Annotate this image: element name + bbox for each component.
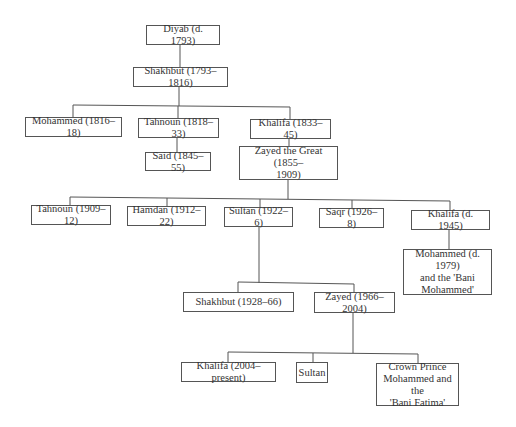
- node-diyab: Diyab (d. 1793): [146, 25, 220, 45]
- node-tahnoun-1909: Tahnoun (1909–12): [31, 205, 111, 225]
- node-shakhbut-1793: Shakhbut (1793–1816): [133, 67, 228, 87]
- node-saqr-1926: Saqr (1926–8): [319, 208, 384, 228]
- node-mohammed-1979: Mohammed (d. 1979) and the 'Bani Mohamme…: [403, 249, 492, 295]
- node-khalifa-2004: Khalifa (2004–present): [181, 362, 276, 382]
- node-mohammed-1816: Mohammed (1816–18): [25, 117, 122, 137]
- node-zayed-1966: Zayed (1966–2004): [314, 292, 395, 313]
- node-sultan-1922: Sultan (1922–6): [224, 207, 293, 227]
- node-sultan: Sultan: [296, 362, 328, 383]
- node-crown-prince-mohammed: Crown Prince Mohammed and the 'Bani Fati…: [376, 363, 459, 406]
- node-khalifa-1945: Khalifa (d. 1945): [411, 210, 490, 230]
- node-shakhbut-1928: Shakhbut (1928–66): [183, 292, 294, 312]
- node-hamdan-1912: Hamdan (1912–22): [127, 206, 206, 226]
- node-zayed-the-great: Zayed the Great (1855– 1909): [239, 146, 338, 180]
- family-tree-diagram: Diyab (d. 1793) Shakhbut (1793–1816) Moh…: [0, 0, 516, 427]
- node-khalifa-1833: Khalifa (1833–45): [250, 119, 331, 139]
- node-tahnoun-1818: Tahnoun (1818–33): [138, 118, 219, 138]
- node-said-1845: Said (1845–55): [145, 152, 211, 171]
